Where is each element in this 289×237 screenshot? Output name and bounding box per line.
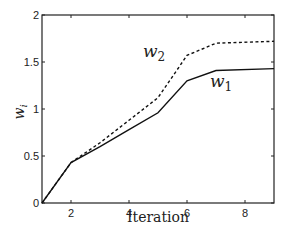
x-tick-label: 2 (68, 207, 74, 219)
x-axis-ticks: 2468 (68, 15, 248, 219)
y-axis-ticks: 00.511.52 (24, 9, 274, 209)
series-label-w1: w1 (210, 71, 232, 94)
data-lines (42, 41, 274, 203)
y-axis-label: wi (11, 104, 29, 119)
series-label-w2: w2 (143, 41, 165, 64)
axes-frame (42, 15, 274, 203)
y-tick-label: 0 (33, 197, 39, 209)
series-labels: w1w2 (143, 41, 232, 94)
x-tick-label: 8 (242, 207, 248, 219)
y-axis-label-subscript: i (18, 104, 29, 107)
y-tick-label: 1.5 (24, 56, 39, 68)
x-axis-label: Iteration (127, 209, 189, 225)
series-line-w2 (42, 41, 274, 203)
y-tick-label: 0.5 (24, 150, 39, 162)
y-tick-label: 2 (33, 9, 39, 21)
plot-area (42, 15, 274, 203)
y-axis-label-base: w (11, 108, 27, 120)
line-chart: 2468 00.511.52 w1w2 Iteration wi (0, 0, 289, 237)
y-tick-label: 1 (33, 103, 39, 115)
series-line-w1 (42, 69, 274, 203)
